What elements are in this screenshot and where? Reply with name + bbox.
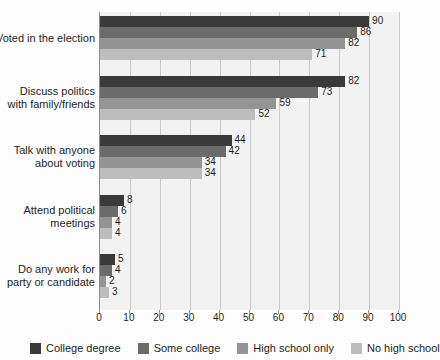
bar-value-label: 4 bbox=[112, 227, 121, 238]
plot-area: 90868271827359524442343486445423 bbox=[99, 12, 399, 310]
category-label-line: Voted in the election bbox=[0, 32, 95, 45]
bar-value-label: 2 bbox=[106, 275, 115, 286]
legend-label: No high school bbox=[367, 342, 440, 354]
x-tick-label: 90 bbox=[363, 312, 374, 323]
gridline bbox=[399, 12, 400, 310]
chart-legend: College degreeSome collegeHigh school on… bbox=[0, 338, 420, 358]
bar-row: 5 bbox=[100, 254, 399, 265]
legend-swatch bbox=[351, 343, 362, 354]
bar[interactable] bbox=[100, 27, 357, 38]
bar-value-label: 8 bbox=[124, 194, 133, 205]
bar-value-label: 4 bbox=[112, 264, 121, 275]
bar-value-label: 3 bbox=[109, 286, 118, 297]
category-label-line: Talk with anyone bbox=[0, 144, 95, 157]
bar-value-label: 4 bbox=[112, 216, 121, 227]
x-tick-label: 40 bbox=[213, 312, 224, 323]
bar-value-label: 59 bbox=[276, 97, 290, 108]
bar-row: 8 bbox=[100, 195, 399, 206]
bar-value-label: 6 bbox=[118, 205, 127, 216]
category-label-line: party or candidate bbox=[0, 276, 95, 289]
category-label: Discuss politicswith family/friends bbox=[0, 85, 95, 111]
category-label-line: with family/friends bbox=[0, 98, 95, 111]
category-label: Attend politicalmeetings bbox=[0, 204, 95, 230]
x-tick-label: 50 bbox=[243, 312, 254, 323]
bar[interactable] bbox=[100, 228, 112, 239]
x-tick-label: 30 bbox=[183, 312, 194, 323]
bar-row: 90 bbox=[100, 16, 399, 27]
bar-row: 34 bbox=[100, 168, 399, 179]
bar-row: 4 bbox=[100, 217, 399, 228]
category-label: Do any work forparty or candidate bbox=[0, 263, 95, 289]
bar-group: 8644 bbox=[100, 195, 399, 239]
bar-value-label: 82 bbox=[345, 37, 359, 48]
legend-item[interactable]: College degree bbox=[30, 342, 121, 354]
bar-row: 4 bbox=[100, 228, 399, 239]
bar-value-label: 42 bbox=[226, 145, 240, 156]
bar[interactable] bbox=[100, 157, 202, 168]
bar-value-label: 82 bbox=[345, 75, 359, 86]
bar-value-label: 52 bbox=[255, 108, 269, 119]
bar-row: 3 bbox=[100, 287, 399, 298]
bar-row: 59 bbox=[100, 98, 399, 109]
bar[interactable] bbox=[100, 38, 345, 49]
bar-value-label: 90 bbox=[369, 15, 383, 26]
bar-value-label: 71 bbox=[312, 48, 326, 59]
bar-row: 6 bbox=[100, 206, 399, 217]
bar[interactable] bbox=[100, 49, 312, 60]
bar-row: 44 bbox=[100, 135, 399, 146]
x-tick-label: 80 bbox=[333, 312, 344, 323]
bar-group: 82735952 bbox=[100, 76, 399, 120]
bar-value-label: 44 bbox=[232, 134, 246, 145]
category-label-line: about voting bbox=[0, 157, 95, 170]
x-tick-label: 0 bbox=[96, 312, 102, 323]
bar-value-label: 34 bbox=[202, 167, 216, 178]
bar-row: 42 bbox=[100, 146, 399, 157]
legend-label: High school only bbox=[253, 342, 334, 354]
x-tick-label: 60 bbox=[273, 312, 284, 323]
legend-swatch bbox=[30, 343, 41, 354]
bar-row: 2 bbox=[100, 276, 399, 287]
bar-row: 4 bbox=[100, 265, 399, 276]
bar[interactable] bbox=[100, 98, 276, 109]
legend-label: Some college bbox=[154, 342, 221, 354]
bar-row: 73 bbox=[100, 87, 399, 98]
bar[interactable] bbox=[100, 135, 232, 146]
x-tick-label: 20 bbox=[153, 312, 164, 323]
category-label-line: Do any work for bbox=[0, 263, 95, 276]
category-label: Talk with anyoneabout voting bbox=[0, 144, 95, 170]
category-label-line: Discuss politics bbox=[0, 85, 95, 98]
bar-row: 52 bbox=[100, 109, 399, 120]
bar-value-label: 73 bbox=[318, 86, 332, 97]
bar-row: 82 bbox=[100, 76, 399, 87]
legend-item[interactable]: High school only bbox=[237, 342, 334, 354]
bar-group: 44423434 bbox=[100, 135, 399, 179]
bar-row: 34 bbox=[100, 157, 399, 168]
bar-value-label: 86 bbox=[357, 26, 371, 37]
bar-group: 90868271 bbox=[100, 16, 399, 60]
bar[interactable] bbox=[100, 217, 112, 228]
legend-label: College degree bbox=[46, 342, 121, 354]
bar[interactable] bbox=[100, 109, 255, 120]
category-label-line: meetings bbox=[0, 217, 95, 230]
bar-value-label: 5 bbox=[115, 253, 124, 264]
bar[interactable] bbox=[100, 287, 109, 298]
x-tick-label: 100 bbox=[390, 312, 407, 323]
category-label-line: Attend political bbox=[0, 204, 95, 217]
bar-value-label: 34 bbox=[202, 156, 216, 167]
legend-item[interactable]: No high school bbox=[351, 342, 440, 354]
bar-row: 82 bbox=[100, 38, 399, 49]
bar[interactable] bbox=[100, 16, 369, 27]
category-label: Voted in the election bbox=[0, 32, 95, 45]
bar[interactable] bbox=[100, 76, 345, 87]
legend-swatch bbox=[237, 343, 248, 354]
bar-group: 5423 bbox=[100, 254, 399, 298]
legend-swatch bbox=[138, 343, 149, 354]
bar[interactable] bbox=[100, 168, 202, 179]
x-tick-label: 10 bbox=[123, 312, 134, 323]
bar-row: 71 bbox=[100, 49, 399, 60]
x-tick-label: 70 bbox=[303, 312, 314, 323]
x-axis: 0102030405060708090100 bbox=[99, 310, 398, 328]
legend-item[interactable]: Some college bbox=[138, 342, 221, 354]
